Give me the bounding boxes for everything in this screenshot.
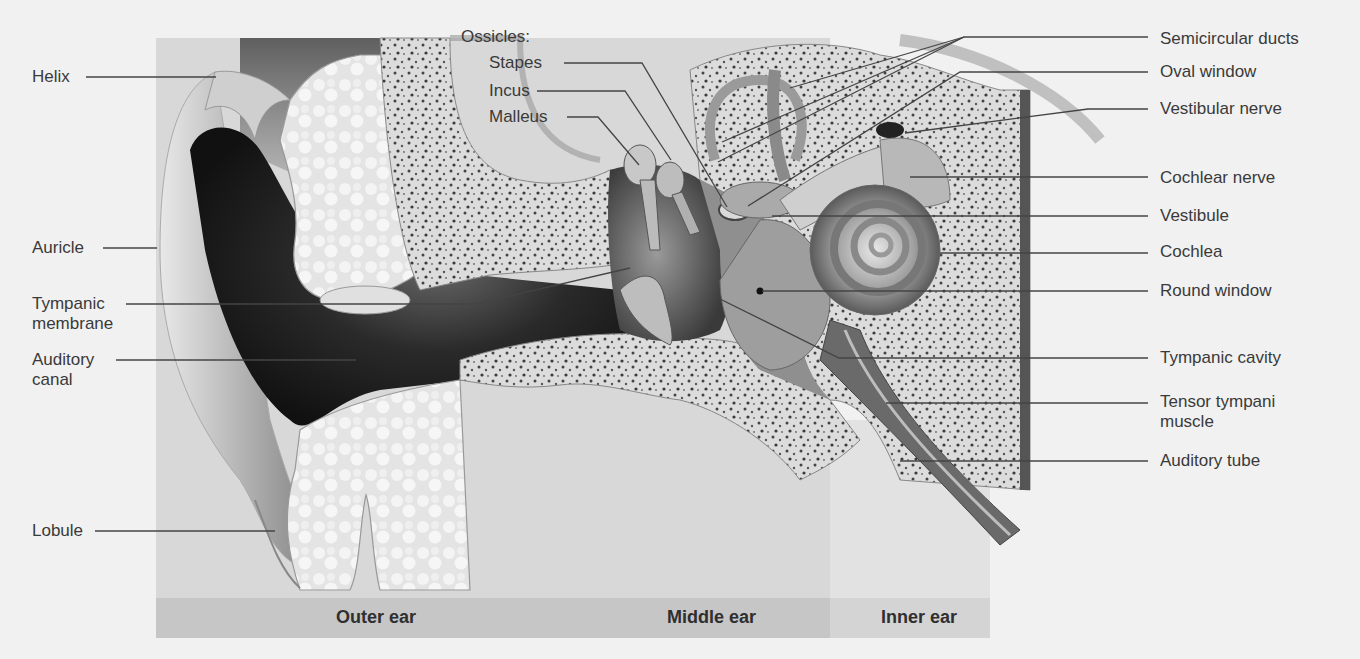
- label-tympanic-membrane: Tympanic membrane: [32, 294, 113, 334]
- label-auditory-tube: Auditory tube: [1160, 451, 1260, 471]
- label-ossicles-heading: Ossicles:: [461, 27, 530, 47]
- ear-illustration: [0, 0, 1360, 659]
- label-lobule: Lobule: [32, 521, 83, 541]
- label-vestibule: Vestibule: [1160, 206, 1229, 226]
- label-tympanic-membrane-line1: Tympanic: [32, 294, 113, 314]
- label-vestibular-nerve: Vestibular nerve: [1160, 99, 1282, 119]
- label-semicircular-ducts: Semicircular ducts: [1160, 29, 1299, 49]
- label-auditory-canal-line2: canal: [32, 370, 94, 390]
- label-round-window: Round window: [1160, 281, 1272, 301]
- ear-diagram: Helix Auricle Tympanic membrane Auditory…: [0, 0, 1360, 659]
- label-auditory-canal-line1: Auditory: [32, 350, 94, 370]
- label-malleus: Malleus: [489, 107, 548, 127]
- region-label-inner-ear: Inner ear: [881, 606, 957, 628]
- label-tympanic-membrane-line2: membrane: [32, 314, 113, 334]
- label-auricle: Auricle: [32, 238, 84, 258]
- label-cochlea: Cochlea: [1160, 242, 1222, 262]
- label-tensor-tympani-line2: muscle: [1160, 412, 1275, 432]
- region-label-middle-ear: Middle ear: [667, 606, 756, 628]
- label-oval-window: Oval window: [1160, 62, 1256, 82]
- label-tympanic-cavity: Tympanic cavity: [1160, 348, 1281, 368]
- label-helix: Helix: [32, 67, 70, 87]
- label-cochlear-nerve: Cochlear nerve: [1160, 168, 1275, 188]
- label-stapes: Stapes: [489, 53, 542, 73]
- label-tensor-tympani: Tensor tympani muscle: [1160, 392, 1275, 432]
- label-auditory-canal: Auditory canal: [32, 350, 94, 390]
- label-incus: Incus: [489, 81, 530, 101]
- label-tensor-tympani-line1: Tensor tympani: [1160, 392, 1275, 412]
- region-label-outer-ear: Outer ear: [336, 606, 416, 628]
- malleus-shape: [624, 145, 656, 185]
